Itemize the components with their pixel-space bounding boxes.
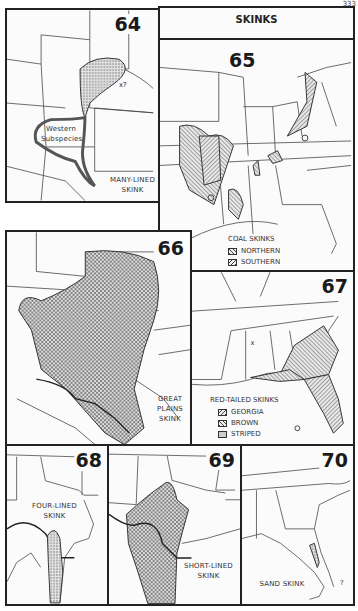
map-panel-68: 68 FOUR-LINED SKINK [5, 444, 109, 606]
stipple-swatch-icon [218, 431, 227, 438]
legend-item-northern: NORTHERN [228, 246, 280, 257]
map-number: 67 [321, 276, 349, 296]
map-number: 65 [228, 50, 256, 70]
legend-title: COAL SKINKS [228, 234, 280, 245]
legend-item-georgia: GEORGIA [210, 407, 278, 418]
label-line: Subspecies [41, 135, 82, 143]
map-panel-67: x 67 RED-TAILED SKINKS GEORGIA BROWN STR… [190, 270, 355, 447]
label-line: FOUR-LINED [32, 502, 77, 510]
annotation-question: ? [340, 578, 344, 588]
map-panel-64: x? 64 Western Subspecies MANY-LINED SKIN… [5, 8, 160, 203]
species-label: SHORT-LINED SKINK [181, 561, 236, 581]
map-number: 69 [208, 450, 236, 470]
label-line: SKINK [198, 572, 220, 580]
species-label: GREAT PLAINS SKINK [152, 394, 188, 424]
svg-text:x?: x? [119, 81, 127, 89]
legend-title: RED-TAILED SKINKS [210, 395, 278, 406]
map-number: 68 [75, 450, 103, 470]
label-line: SKINK [159, 415, 181, 423]
legend-label: BROWN [231, 418, 258, 429]
legend-label: STRIPED [231, 429, 261, 440]
legend-item-southern: SOUTHERN [228, 257, 280, 268]
species-label: SAND SKINK [252, 579, 312, 589]
hatch-swatch-icon [228, 259, 237, 266]
legend-label: SOUTHERN [241, 257, 280, 268]
label-line: SHORT-LINED [184, 562, 233, 570]
label-line: PLAINS [157, 405, 183, 413]
legend-coal-skinks: COAL SKINKS NORTHERN SOUTHERN [228, 234, 280, 268]
map-panel-69: 69 SHORT-LINED SKINK [107, 444, 242, 606]
species-label: MANY-LINED SKINK [105, 175, 160, 195]
label-line: SKINK [44, 512, 66, 520]
legend-label: GEORGIA [231, 407, 264, 418]
legend-item-striped: STRIPED [210, 429, 278, 440]
annotation-western: Western Subspecies [41, 124, 81, 144]
label-line: SKINK [122, 186, 144, 194]
legend-label: NORTHERN [241, 246, 280, 257]
label-line: MANY-LINED [110, 176, 155, 184]
hatch-swatch-icon [228, 248, 237, 255]
legend-item-brown: BROWN [210, 418, 278, 429]
map-number: 64 [114, 14, 142, 34]
svg-text:x: x [251, 339, 255, 347]
hatch-swatch-icon [218, 409, 227, 416]
map-number: 70 [321, 450, 349, 470]
map-number: 66 [157, 238, 185, 258]
label-line: GREAT [158, 395, 182, 403]
label-line: Western [46, 125, 76, 133]
map-64-graphic: x? [7, 10, 158, 201]
legend-red-tailed-skinks: RED-TAILED SKINKS GEORGIA BROWN STRIPED [210, 395, 278, 440]
map-panel-70: 70 ? SAND SKINK [240, 444, 355, 606]
map-panel-66: 66 GREAT PLAINS SKINK [5, 230, 192, 447]
species-label: FOUR-LINED SKINK [27, 501, 82, 521]
hatch-swatch-icon [218, 420, 227, 427]
